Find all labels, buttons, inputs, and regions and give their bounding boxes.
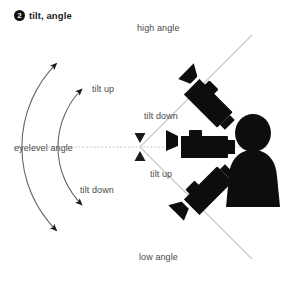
camera-high-angle (173, 63, 243, 133)
label-tilt-up-outer-top: tilt up (92, 84, 114, 94)
label-low-angle: low angle (139, 252, 178, 262)
person-silhouette (226, 114, 280, 207)
label-high-angle: high angle (137, 23, 180, 33)
label-tilt-down-outer-bottom: tilt down (80, 185, 114, 195)
label-tilt-down-inner-top: tilt down (144, 111, 178, 121)
label-eyelevel-angle: eyelevel angle (14, 143, 73, 153)
label-tilt-up-inner-bottom: tilt up (150, 169, 172, 179)
camera-eyelevel-angle (166, 130, 235, 159)
